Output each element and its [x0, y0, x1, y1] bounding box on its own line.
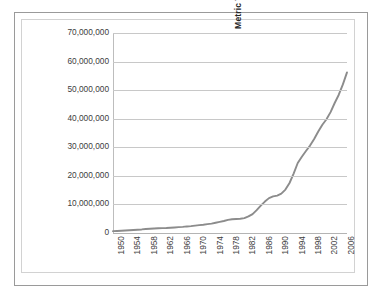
- x-axis-tick-label: 2006: [347, 236, 356, 270]
- y-axis-tick-label: 60,000,000: [25, 57, 109, 65]
- x-axis-tick-label: 1966: [183, 236, 192, 270]
- x-axis-tick-label: 1970: [199, 236, 208, 270]
- plot-area: [113, 33, 347, 233]
- data-series-line: [113, 33, 347, 233]
- x-axis-tick-label: 1958: [150, 236, 159, 270]
- gridline: [113, 62, 347, 63]
- y-axis-tick-label: 10,000,000: [25, 199, 109, 207]
- gridline: [113, 204, 347, 205]
- gridline: [113, 176, 347, 177]
- x-axis-tick-label: 1990: [281, 236, 290, 270]
- x-axis-tick-label: 1962: [166, 236, 175, 270]
- x-axis-tick-label: 1994: [298, 236, 307, 270]
- gridline: [113, 119, 347, 120]
- chart-figure: Metric Tons of Aquaculture Production 70…: [0, 0, 385, 297]
- x-axis-tick-label: 1986: [265, 236, 274, 270]
- x-axis-tick-labels: 1950195419581962196619701974197819821986…: [113, 236, 347, 282]
- gridline: [113, 147, 347, 148]
- x-axis-tick-label: 2002: [330, 236, 339, 270]
- gridline: [113, 33, 347, 34]
- y-axis-tick-label: 50,000,000: [25, 85, 109, 93]
- gridline: [113, 90, 347, 91]
- x-axis-tick-label: 1974: [216, 236, 225, 270]
- y-axis-tick-label: 0: [25, 228, 109, 236]
- x-axis-tick-label: 1982: [248, 236, 257, 270]
- y-axis-tick-label: 40,000,000: [25, 114, 109, 122]
- x-axis-tick-label: 1978: [232, 236, 241, 270]
- y-axis-tick-label: 70,000,000: [25, 28, 109, 36]
- y-axis-tick-label: 20,000,000: [25, 171, 109, 179]
- y-axis-tick-label: 30,000,000: [25, 142, 109, 150]
- x-axis-tick-label: 1950: [117, 236, 126, 270]
- x-axis-tick-label: 1998: [314, 236, 323, 270]
- x-axis-tick-label: 1954: [133, 236, 142, 270]
- gridline: [113, 233, 347, 234]
- y-axis-tick-labels: 70,000,00060,000,00050,000,00040,000,000…: [21, 0, 109, 297]
